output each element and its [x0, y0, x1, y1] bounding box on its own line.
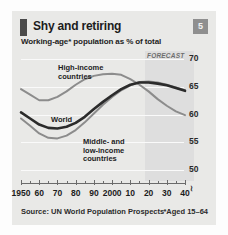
x-tick-1965 [48, 181, 49, 184]
x-tick-1985 [85, 181, 86, 184]
x-tick-label-2040: 40 [180, 188, 189, 198]
chart-number-badge: 5 [193, 19, 208, 34]
series-line-middle-and-low-income-countries [21, 81, 185, 138]
footnote-text: *Aged 15–64 [163, 207, 208, 216]
x-tick-label-1990: 90 [89, 188, 98, 198]
x-tick-2020 [149, 180, 150, 185]
x-tick-label-1960: 60 [35, 188, 44, 198]
x-tick-label-1970: 70 [53, 188, 62, 198]
axis-break-icon: ≀ [190, 184, 193, 193]
chart-card: 5 Shy and retiring Working-age* populati… [12, 11, 216, 225]
x-tick-2005 [121, 181, 122, 184]
x-tick-1950 [21, 180, 22, 185]
x-tick-label-2030: 30 [162, 188, 171, 198]
x-tick-label-2010: 10 [126, 188, 135, 198]
x-tick-label-1980: 80 [71, 188, 80, 198]
chart-figure: 5 Shy and retiring Working-age* populati… [0, 0, 228, 235]
x-tick-label-1950: 1950 [12, 188, 31, 198]
series-label-high-income: High-income countries [58, 64, 103, 81]
x-tick-1960 [39, 180, 40, 185]
x-axis [21, 181, 185, 186]
x-tick-2040 [185, 180, 186, 185]
x-tick-1970 [57, 180, 58, 185]
x-tick-1955 [30, 181, 31, 184]
x-tick-1990 [94, 180, 95, 185]
accent-bar [20, 19, 27, 36]
x-tick-2000 [112, 180, 113, 185]
x-tick-2015 [139, 181, 140, 184]
x-tick-label-2000: 2000 [103, 188, 122, 198]
plot-area: FORECAST 5055606570 ≀ High-income countr… [21, 51, 207, 181]
x-tick-2025 [158, 181, 159, 184]
x-tick-2035 [176, 181, 177, 184]
series-label-world: World [51, 116, 72, 125]
chart-subtitle: Working-age* population as % of total [21, 37, 161, 46]
x-tick-1980 [76, 180, 77, 185]
x-tick-2030 [167, 180, 168, 185]
series-label-middle-low-income: Middle- and low-income countries [83, 138, 125, 164]
x-tick-label-2020: 20 [144, 188, 153, 198]
x-tick-2010 [130, 180, 131, 185]
chart-title: Shy and retiring [33, 19, 121, 33]
source-text: Source: UN World Population Prospects [21, 207, 164, 216]
x-tick-1995 [103, 181, 104, 184]
x-tick-1975 [67, 181, 68, 184]
